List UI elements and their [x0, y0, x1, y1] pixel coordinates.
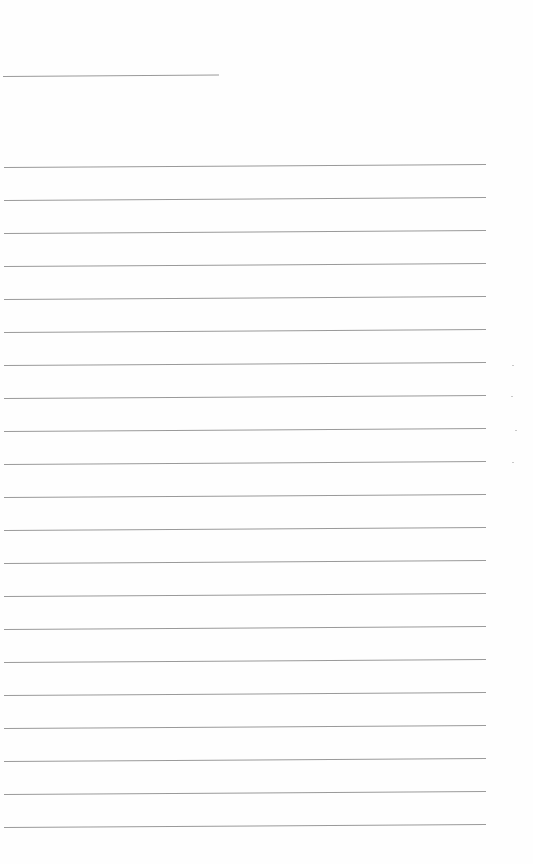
ruled-line: [4, 263, 486, 267]
ruled-line: [4, 395, 486, 399]
header-rule-line: [3, 74, 219, 77]
scan-speck: [512, 462, 514, 463]
ruled-line: [4, 692, 486, 696]
ruled-line: [4, 329, 486, 333]
ruled-line: [4, 230, 486, 234]
lined-page: [0, 0, 533, 864]
scan-speck: [515, 430, 517, 431]
ruled-line: [4, 758, 486, 762]
ruled-line: [4, 626, 486, 630]
ruled-line: [4, 593, 486, 597]
ruled-line: [4, 461, 486, 465]
ruled-line: [4, 560, 486, 564]
ruled-line: [4, 164, 486, 168]
ruled-line: [4, 824, 486, 828]
ruled-line: [4, 296, 486, 300]
ruled-line: [4, 428, 486, 432]
ruled-line: [4, 197, 486, 201]
scan-speck: [511, 396, 513, 397]
ruled-line: [4, 362, 486, 366]
ruled-line: [4, 791, 486, 795]
ruled-line: [4, 494, 486, 498]
ruled-line: [4, 659, 486, 663]
scan-speck: [512, 365, 514, 366]
ruled-line: [4, 527, 486, 531]
ruled-line: [4, 725, 486, 729]
